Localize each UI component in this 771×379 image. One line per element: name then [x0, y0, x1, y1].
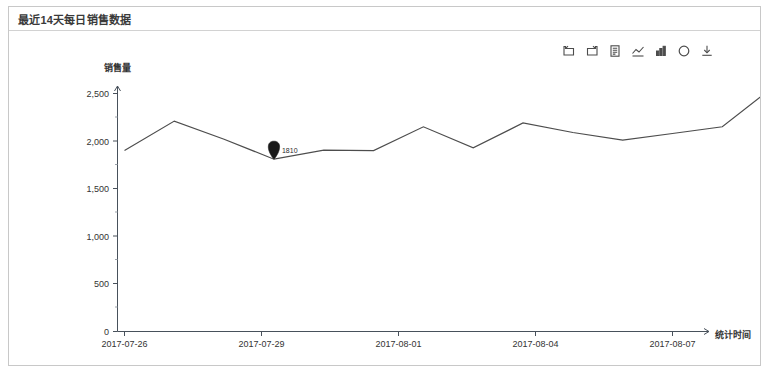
y-axis-title: 销售量: [104, 62, 131, 73]
x-axis-tick-labels: 2017-07-26 2017-07-29 2017-08-01 2017-08…: [101, 339, 695, 349]
x-tick-label: 2017-08-01: [375, 339, 421, 349]
y-axis-tick-labels: 2,500 2,000 1,500 1,000 500 0: [86, 89, 109, 337]
x-tick-label: 2017-07-26: [101, 339, 147, 349]
y-axis-ticks: [113, 94, 118, 332]
x-tick-label: 2017-07-29: [238, 339, 284, 349]
y-tick-label: 2,500: [86, 89, 109, 99]
x-tick-label: 2017-08-04: [512, 339, 558, 349]
panel-header: 最近14天每日销售数据: [9, 7, 760, 31]
y-tick-label: 1,500: [86, 184, 109, 194]
x-tick-label: 2017-08-07: [649, 339, 695, 349]
series-line-sales[interactable]: [125, 88, 761, 159]
marker-layer: 18102560: [268, 70, 760, 159]
y-tick-label: 1,000: [86, 232, 109, 242]
y-tick-label: 0: [104, 327, 109, 337]
x-axis-ticks: [125, 332, 673, 337]
line-chart-svg: 2,500 2,000 1,500 1,000 500 0 销售量: [9, 31, 760, 365]
x-axis-title: 统计时间: [715, 329, 751, 340]
page-title: 最近14天每日销售数据: [9, 11, 131, 27]
min-point-marker: 1810: [268, 141, 297, 159]
panel-body: 2,500 2,000 1,500 1,000 500 0 销售量: [9, 31, 760, 365]
y-tick-label: 2,000: [86, 137, 109, 147]
min-point-label: 1810: [282, 147, 298, 154]
chart-area: 2,500 2,000 1,500 1,000 500 0 销售量: [9, 31, 760, 365]
chart-panel: 最近14天每日销售数据: [8, 6, 761, 366]
y-tick-label: 500: [94, 279, 109, 289]
